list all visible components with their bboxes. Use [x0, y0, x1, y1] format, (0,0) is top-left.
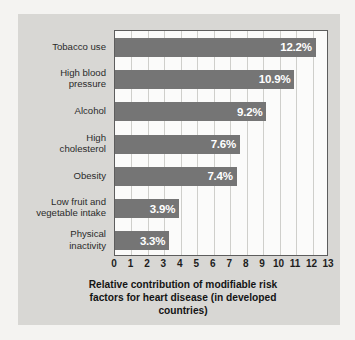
category-label: Alcohol: [14, 105, 106, 116]
x-tick-label: 8: [243, 258, 249, 269]
x-tick-label: 0: [111, 258, 117, 269]
bar: 3.9%: [115, 199, 179, 218]
bar-row: 7.6%: [115, 135, 240, 154]
x-tick-label: 1: [128, 258, 134, 269]
bar: 7.4%: [115, 167, 237, 186]
bar: 9.2%: [115, 102, 266, 121]
bar-value-label: 7.4%: [207, 170, 232, 182]
x-tick-label: 12: [306, 258, 317, 269]
bar: 7.6%: [115, 135, 240, 154]
x-tick-label: 11: [290, 258, 301, 269]
bar-row: 12.2%: [115, 38, 316, 57]
bar-row: 3.3%: [115, 231, 169, 250]
x-axis-tick-labels: 012345678910111213: [114, 258, 328, 274]
caption-line: factors for heart disease (in developed: [44, 291, 322, 304]
x-tick-label: 13: [322, 258, 333, 269]
bar-value-label: 3.3%: [140, 235, 165, 247]
x-tick-label: 10: [273, 258, 284, 269]
caption-line: countries): [44, 304, 322, 317]
x-tick-label: 3: [161, 258, 167, 269]
x-tick-label: 2: [144, 258, 150, 269]
category-label: Low fruit and vegetable intake: [14, 196, 106, 219]
chart-caption: Relative contribution of modifiable risk…: [44, 278, 322, 317]
bar: 3.3%: [115, 231, 169, 250]
x-tick-label: 9: [259, 258, 265, 269]
x-tick-label: 7: [226, 258, 232, 269]
bar: 10.9%: [115, 70, 294, 89]
category-label: Obesity: [14, 170, 106, 181]
x-tick-label: 6: [210, 258, 216, 269]
plot-area: 12.2%10.9%9.2%7.6%7.4%3.9%3.3%: [114, 30, 328, 256]
category-axis-labels: Tobacco useHigh blood pressureAlcoholHig…: [18, 30, 110, 256]
category-label: Tobacco use: [14, 41, 106, 52]
category-label: High cholesterol: [14, 132, 106, 155]
caption-line: Relative contribution of modifiable risk: [44, 278, 322, 291]
bar-row: 9.2%: [115, 102, 266, 121]
plot-area-wrapper: 12.2%10.9%9.2%7.6%7.4%3.9%3.3%: [114, 30, 328, 256]
bar-value-label: 3.9%: [150, 203, 175, 215]
bar-value-label: 10.9%: [259, 73, 291, 85]
x-tick-label: 4: [177, 258, 183, 269]
page-background: Tobacco useHigh blood pressureAlcoholHig…: [0, 0, 355, 340]
bar-row: 10.9%: [115, 70, 294, 89]
category-label: Physical inactivity: [14, 228, 106, 251]
bar-value-label: 12.2%: [280, 41, 312, 53]
bar-row: 7.4%: [115, 167, 237, 186]
bar-row: 3.9%: [115, 199, 179, 218]
bar-value-label: 9.2%: [237, 106, 262, 118]
bar-value-label: 7.6%: [211, 138, 236, 150]
bar: 12.2%: [115, 38, 316, 57]
category-label: High blood pressure: [14, 67, 106, 90]
figure-panel: Tobacco useHigh blood pressureAlcoholHig…: [18, 14, 340, 325]
x-tick-label: 5: [194, 258, 200, 269]
bar-series: 12.2%10.9%9.2%7.6%7.4%3.9%3.3%: [115, 31, 327, 255]
